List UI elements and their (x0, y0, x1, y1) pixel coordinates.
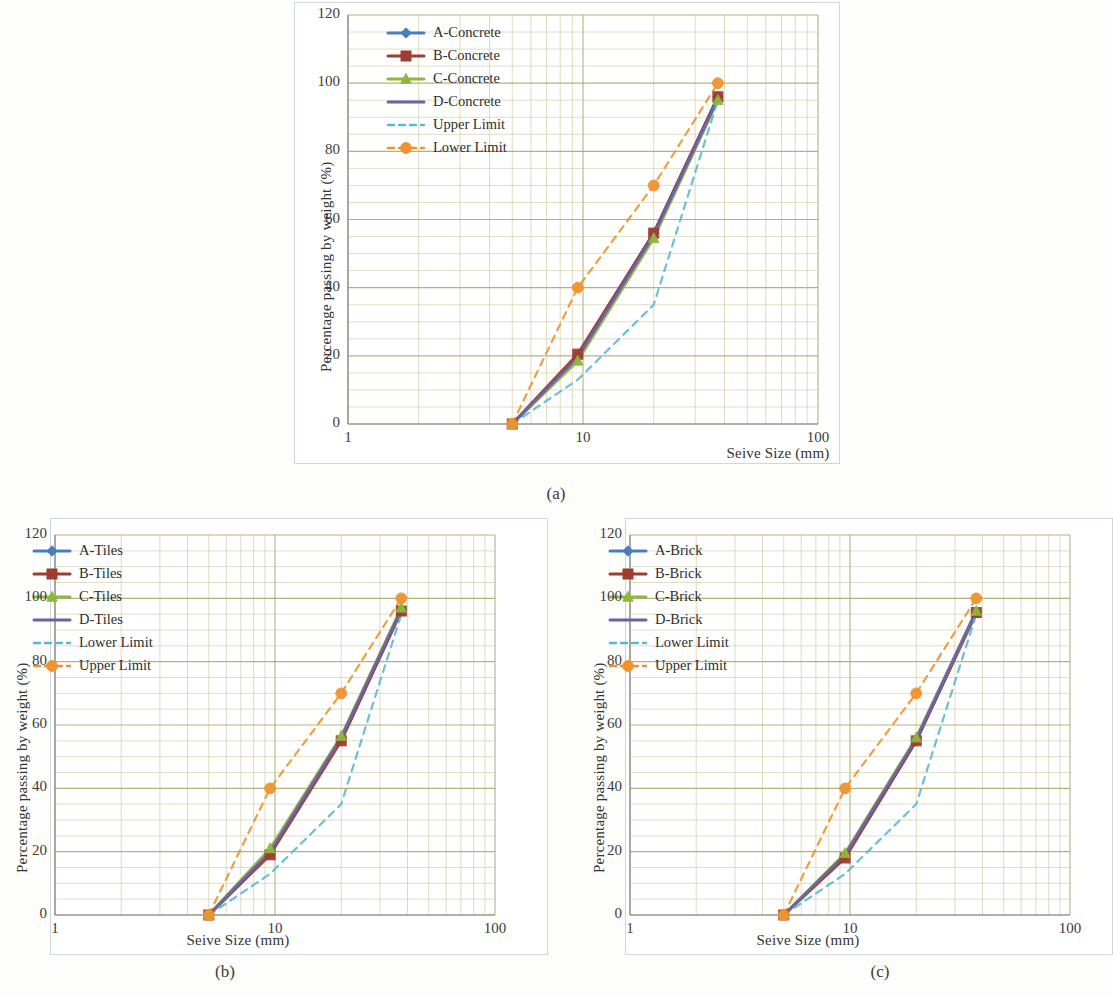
legend-item-label: A-Brick (655, 543, 703, 558)
legend-item[interactable]: A-Concrete (386, 21, 507, 44)
legend-marker-square-icon (386, 49, 426, 63)
y-tick-label: 100 (588, 588, 622, 605)
legend-item[interactable]: C-Brick (608, 585, 729, 608)
legend-item-label: A-Concrete (433, 25, 501, 40)
caption-b: (b) (185, 962, 265, 982)
y-tick-label: 100 (13, 588, 47, 605)
legend-marker-line-icon (32, 613, 72, 627)
legend-marker-circle-icon (386, 141, 426, 155)
legend-item-label: Lower Limit (433, 140, 507, 155)
x-tick-label: 10 (250, 920, 300, 937)
y-tick-label: 40 (306, 278, 340, 295)
legend-item-label: Upper Limit (655, 658, 727, 673)
y-tick-label: 60 (306, 210, 340, 227)
legend-item-label: Upper Limit (433, 117, 505, 132)
legend-item-label: B-Concrete (433, 48, 500, 63)
y-tick-label: 60 (588, 715, 622, 732)
y-tick-label: 80 (588, 652, 622, 669)
figure-panel-c: Percentage passing by weight (%) Seive S… (583, 518, 1113, 955)
x-tick-label: 1 (605, 920, 655, 937)
legend-item-label: C-Brick (655, 589, 702, 604)
legend-item-label: D-Tiles (79, 612, 123, 627)
caption-c: (c) (840, 962, 920, 982)
legend-marker-dash-icon (32, 636, 72, 650)
figure-panel-b: Percentage passing by weight (%) Seive S… (2, 518, 548, 955)
y-tick-label: 20 (13, 842, 47, 859)
chart-a-x-axis-title: Seive Size (mm) (698, 445, 858, 462)
legend-item[interactable]: A-Brick (608, 539, 729, 562)
legend-item-label: C-Tiles (79, 589, 122, 604)
chart-c-legend: A-BrickB-BrickC-BrickD-BrickLower LimitU… (608, 539, 729, 677)
legend-item[interactable]: D-Tiles (32, 608, 153, 631)
chart-b-legend: A-TilesB-TilesC-TilesD-TilesLower LimitU… (32, 539, 153, 677)
y-tick-label: 40 (588, 778, 622, 795)
y-tick-label: 120 (306, 5, 340, 22)
legend-item[interactable]: C-Concrete (386, 67, 507, 90)
legend-item[interactable]: Upper Limit (32, 654, 153, 677)
legend-item[interactable]: B-Tiles (32, 562, 153, 585)
legend-item[interactable]: A-Tiles (32, 539, 153, 562)
legend-item[interactable]: C-Tiles (32, 585, 153, 608)
legend-item[interactable]: Upper Limit (386, 113, 507, 136)
legend-marker-triangle-icon (386, 72, 426, 86)
y-tick-label: 100 (306, 73, 340, 90)
legend-marker-dash-icon (608, 636, 648, 650)
legend-marker-diamond-icon (32, 544, 72, 558)
x-tick-label: 100 (1045, 920, 1095, 937)
legend-item-label: B-Tiles (79, 566, 122, 581)
legend-item-label: D-Brick (655, 612, 703, 627)
legend-item[interactable]: B-Brick (608, 562, 729, 585)
x-tick-label: 100 (793, 429, 843, 446)
y-tick-label: 120 (588, 525, 622, 542)
x-tick-label: 100 (470, 920, 520, 937)
legend-item-label: B-Brick (655, 566, 702, 581)
legend-item[interactable]: B-Concrete (386, 44, 507, 67)
legend-item-label: D-Concrete (433, 94, 501, 109)
legend-marker-diamond-icon (386, 26, 426, 40)
legend-item-label: Lower Limit (79, 635, 153, 650)
legend-item-label: A-Tiles (79, 543, 123, 558)
y-tick-label: 20 (588, 842, 622, 859)
x-tick-label: 10 (825, 920, 875, 937)
chart-a-y-axis-title: Percentage passing by weight (%) (318, 161, 335, 372)
x-tick-label: 1 (323, 429, 373, 446)
legend-item[interactable]: Lower Limit (386, 136, 507, 159)
legend-item-label: Upper Limit (79, 658, 151, 673)
legend-marker-dash-icon (386, 118, 426, 132)
legend-marker-line-icon (608, 613, 648, 627)
legend-item[interactable]: Lower Limit (32, 631, 153, 654)
y-tick-label: 60 (13, 715, 47, 732)
x-tick-label: 1 (30, 920, 80, 937)
caption-a: (a) (516, 484, 596, 504)
legend-item[interactable]: D-Concrete (386, 90, 507, 113)
legend-marker-square-icon (32, 567, 72, 581)
legend-item[interactable]: Upper Limit (608, 654, 729, 677)
legend-marker-line-icon (386, 95, 426, 109)
y-tick-label: 120 (13, 525, 47, 542)
x-tick-label: 10 (558, 429, 608, 446)
chart-a-legend: A-ConcreteB-ConcreteC-ConcreteD-Concrete… (386, 21, 507, 159)
y-tick-label: 40 (13, 778, 47, 795)
y-tick-label: 20 (306, 346, 340, 363)
legend-marker-square-icon (608, 567, 648, 581)
figure-panel-a: Percentage passing by weight (%) Seive S… (294, 2, 840, 464)
y-tick-label: 80 (306, 141, 340, 158)
legend-item[interactable]: D-Brick (608, 608, 729, 631)
legend-item-label: Lower Limit (655, 635, 729, 650)
legend-marker-diamond-icon (608, 544, 648, 558)
y-tick-label: 80 (13, 652, 47, 669)
legend-item-label: C-Concrete (433, 71, 500, 86)
legend-item[interactable]: Lower Limit (608, 631, 729, 654)
